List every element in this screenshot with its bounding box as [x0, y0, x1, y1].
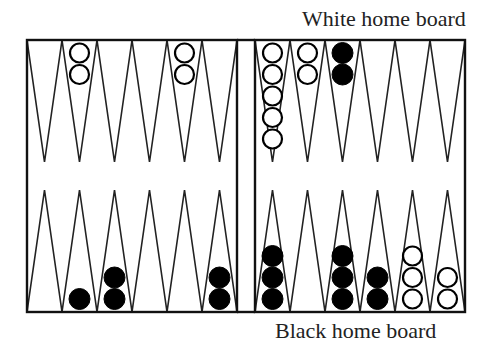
left-half-frame [27, 40, 237, 312]
black-checker[interactable] [262, 289, 283, 310]
black-checker[interactable] [332, 246, 353, 267]
point-triangle [430, 40, 465, 162]
black-checker[interactable] [332, 64, 353, 85]
white-checker[interactable] [403, 290, 422, 309]
point-triangle [290, 190, 325, 312]
backgammon-board [0, 0, 492, 358]
point-triangle [202, 40, 237, 162]
white-checker[interactable] [263, 44, 282, 63]
white-checker[interactable] [263, 130, 282, 149]
black-checker[interactable] [209, 289, 230, 310]
black-checker[interactable] [332, 43, 353, 64]
white-checker[interactable] [438, 268, 457, 287]
white-checker[interactable] [175, 65, 194, 84]
point-triangle [27, 40, 62, 162]
black-checker[interactable] [262, 267, 283, 288]
white-checker[interactable] [298, 65, 317, 84]
point-triangle [27, 190, 62, 312]
white-checker[interactable] [70, 65, 89, 84]
white-checker[interactable] [403, 247, 422, 266]
white-checker[interactable] [263, 108, 282, 127]
white-checker[interactable] [175, 44, 194, 63]
black-checker[interactable] [262, 246, 283, 267]
point-triangle [97, 40, 132, 162]
white-checker[interactable] [298, 44, 317, 63]
black-checker[interactable] [332, 267, 353, 288]
checkers-layer [69, 43, 457, 310]
black-checker[interactable] [104, 289, 125, 310]
black-checker[interactable] [104, 267, 125, 288]
point-triangle [132, 40, 167, 162]
white-checker[interactable] [263, 65, 282, 84]
white-checker[interactable] [263, 87, 282, 106]
white-checker[interactable] [438, 290, 457, 309]
right-half-frame [255, 40, 465, 312]
point-triangle [167, 190, 202, 312]
black-checker[interactable] [367, 267, 388, 288]
black-checker[interactable] [367, 289, 388, 310]
black-checker[interactable] [209, 267, 230, 288]
black-checker[interactable] [69, 289, 90, 310]
white-checker[interactable] [403, 268, 422, 287]
points-layer [27, 40, 465, 312]
point-triangle [132, 190, 167, 312]
black-home-board-label: Black home board [275, 318, 436, 344]
black-checker[interactable] [332, 289, 353, 310]
board-frame [27, 40, 465, 312]
point-triangle [360, 40, 395, 162]
point-triangle [395, 40, 430, 162]
white-checker[interactable] [70, 44, 89, 63]
